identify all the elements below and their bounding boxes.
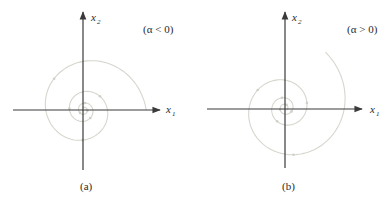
- trajectory-arrow-marker: [290, 110, 293, 113]
- caption-b: (b): [282, 180, 295, 192]
- x1-var-a: x: [166, 103, 171, 115]
- trajectory-arrow-marker: [89, 117, 92, 120]
- trajectory-arrows-b: [256, 89, 308, 156]
- x1-var-b: x: [370, 103, 375, 115]
- x1-axis-label-a: x1: [166, 104, 175, 115]
- trajectory-arrow-marker: [53, 77, 56, 80]
- panel-a: [13, 12, 160, 170]
- trajectory-arrow-marker: [84, 102, 87, 105]
- x2-sub-a: 2: [97, 18, 101, 26]
- trajectory-arrow-marker: [99, 95, 102, 98]
- x2-var-b: x: [292, 11, 297, 23]
- condition-label-b: (α > 0): [347, 24, 377, 35]
- x2-axis-label-b: x2: [292, 12, 301, 23]
- phase-portrait-canvas: [0, 0, 387, 202]
- x1-sub-b: 1: [376, 110, 380, 118]
- trajectory-arrow-marker: [79, 112, 82, 115]
- panel-b: [207, 12, 362, 168]
- trajectory-arrow-marker: [281, 96, 284, 99]
- condition-label-a: (α < 0): [143, 24, 173, 35]
- spiral-trajectory-a: [45, 61, 146, 141]
- trajectory-arrow-marker: [276, 120, 279, 123]
- spiral-trajectory-b: [249, 52, 345, 155]
- trajectory-arrow-marker: [306, 102, 309, 105]
- trajectory-arrow-marker: [292, 153, 295, 156]
- x2-sub-b: 2: [298, 18, 302, 26]
- x1-sub-a: 1: [172, 110, 176, 118]
- x2-var-a: x: [91, 11, 96, 23]
- caption-a: (a): [80, 180, 92, 192]
- trajectory-arrow-marker: [256, 89, 259, 92]
- x2-axis-label-a: x2: [91, 12, 100, 23]
- x1-axis-label-b: x1: [370, 104, 379, 115]
